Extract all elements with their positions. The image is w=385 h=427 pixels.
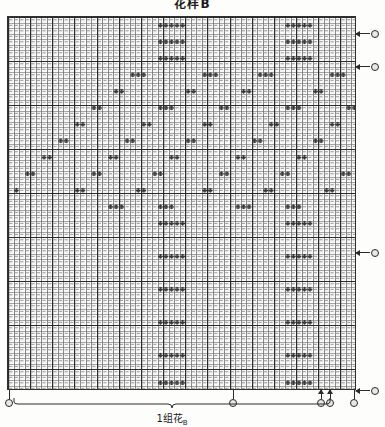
col-marker-repeat-b [316, 390, 326, 407]
row-marker-bottom [356, 385, 379, 396]
marker-circle-icon [5, 399, 13, 407]
row-marker-top-2 [356, 61, 379, 72]
arrow-left-icon [356, 252, 370, 253]
arrow-left-icon [356, 66, 370, 67]
repeat-label-text: 1组花 [156, 413, 182, 424]
arrow-left-icon [356, 33, 370, 34]
row-marker-mid [356, 247, 379, 258]
marker-circle-icon [229, 399, 237, 407]
col-marker-left [4, 390, 14, 407]
marker-stem-icon [9, 390, 10, 399]
repeat-label: 1组花B [112, 410, 232, 427]
col-marker-right [349, 390, 359, 407]
marker-circle-icon [326, 399, 334, 407]
arrow-left-icon [356, 390, 370, 391]
marker-circle-icon [371, 249, 379, 257]
marker-circle-icon [371, 30, 379, 38]
marker-circle-icon [371, 387, 379, 395]
page-title: 花样B [0, 0, 385, 11]
stitch-chart-canvas [8, 17, 356, 390]
col-marker-repeat-c [325, 390, 335, 407]
repeat-label-sub: B [183, 419, 188, 427]
stitch-chart-grid [7, 16, 356, 390]
marker-circle-icon [350, 399, 358, 407]
marker-circle-icon [317, 399, 325, 407]
marker-circle-icon [371, 63, 379, 71]
marker-stem-icon [354, 390, 355, 399]
col-marker-repeat-a [228, 390, 238, 407]
marker-stem-icon [233, 390, 234, 399]
arrow-up-icon [321, 390, 322, 399]
arrow-up-icon [330, 390, 331, 399]
row-marker-top-1 [356, 28, 379, 39]
